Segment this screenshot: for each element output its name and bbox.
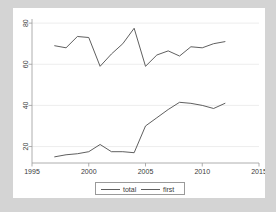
x-tick-label-2015: 2015 <box>251 168 265 175</box>
x-tick-label-2000: 2000 <box>81 168 97 175</box>
chart-figure: 20406080 19952000200520102015 year total… <box>0 0 276 212</box>
chart-legend: total first <box>95 182 185 195</box>
y-axis-ticks: 20406080 <box>23 19 33 150</box>
line-chart-canvas: 20406080 19952000200520102015 year <box>13 8 265 198</box>
legend-label-total: total <box>123 186 137 193</box>
graph-region: 20406080 19952000200520102015 year <box>13 8 265 198</box>
x-tick-label-1995: 1995 <box>24 168 40 175</box>
legend-item-total[interactable]: total <box>101 186 137 193</box>
y-tick-label-40: 40 <box>23 101 30 109</box>
y-tick-label-80: 80 <box>23 19 30 27</box>
x-tick-label-2005: 2005 <box>138 168 154 175</box>
plot-area-background <box>32 19 259 163</box>
x-tick-label-2010: 2010 <box>194 168 210 175</box>
y-tick-label-20: 20 <box>23 143 30 151</box>
legend-item-first[interactable]: first <box>141 186 174 193</box>
y-tick-label-60: 60 <box>23 60 30 68</box>
x-axis-ticks: 19952000200520102015 <box>24 163 265 175</box>
legend-label-first: first <box>163 186 174 193</box>
legend-content: total first <box>96 183 186 195</box>
